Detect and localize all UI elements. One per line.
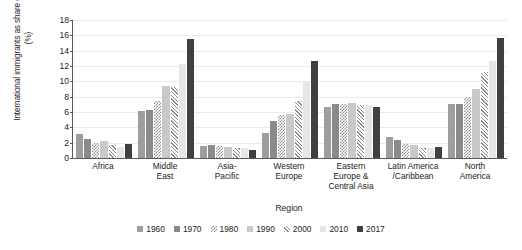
legend-label: 2010 [329,224,348,234]
bar [497,38,504,158]
legend-swatch-icon [247,226,253,232]
x-axis-category-label: Asia-Pacific [196,161,258,192]
bar [138,111,145,158]
x-axis-category-label: WesternEurope [258,161,320,192]
bar [311,61,318,158]
bar [357,105,364,158]
bar [270,121,277,158]
legend-label: 1970 [183,224,202,234]
bar [92,143,99,158]
bar [348,103,355,158]
y-axis-tick-label: 10 [29,76,73,86]
plot-area: 024681012141618 [72,20,507,159]
bar [286,114,293,158]
y-axis-tick-label: 8 [29,92,73,102]
bar [365,105,372,158]
y-axis-tick-label: 6 [29,107,73,117]
y-axis-tick-mark [70,158,73,159]
bar-group [73,20,135,158]
y-axis-tick-label: 0 [29,153,73,163]
bar [216,146,223,158]
bar [84,139,91,158]
bar [241,148,248,158]
y-axis-tick-label: 14 [29,46,73,56]
bar [278,115,285,158]
legend-item[interactable]: 1970 [174,224,202,234]
bar [332,104,339,158]
bar [410,145,417,158]
bar [146,110,153,158]
bar-group [135,20,197,158]
bar [200,146,207,158]
legend-swatch-icon [174,226,180,232]
legend-swatch-icon [137,226,143,232]
bar [262,133,269,158]
legend: 1960197019801990200020102017 [0,224,522,234]
bar [472,89,479,158]
x-axis-category-labels: AfricaMiddleEastAsia-PacificWesternEurop… [72,161,506,192]
bar [171,87,178,158]
bar [100,141,107,158]
legend-label: 1980 [220,224,239,234]
bar [179,64,186,158]
legend-item[interactable]: 2000 [284,224,312,234]
bar [109,145,116,158]
bar [208,145,215,158]
legend-item[interactable]: 2010 [320,224,348,234]
legend-label: 2017 [366,224,385,234]
bar [324,107,331,158]
legend-item[interactable]: 1980 [211,224,239,234]
bar [386,137,393,158]
y-axis-tick-label: 16 [29,30,73,40]
bar [419,148,426,158]
bar [117,147,124,158]
bar [402,144,409,158]
bar [394,140,401,158]
bar-groups [73,20,507,158]
y-axis-tick-label: 2 [29,138,73,148]
bar [435,147,442,159]
immigration-share-bar-chart: International immigrants as share of pop… [0,0,522,250]
bar [464,97,471,158]
x-axis-title: Region [72,203,506,213]
x-axis-category-label: EasternEurope &Central Asia [320,161,382,192]
bar [489,61,496,158]
bar-group [383,20,445,158]
y-axis-tick-label: 12 [29,61,73,71]
legend-label: 2000 [293,224,312,234]
bar-group [197,20,259,158]
bar-group [445,20,507,158]
legend-item[interactable]: 1960 [137,224,165,234]
legend-item[interactable]: 1990 [247,224,275,234]
bar [427,148,434,158]
legend-swatch-icon [357,226,363,232]
bar [295,101,302,158]
bar [249,150,256,158]
legend-swatch-icon [284,226,290,232]
legend-swatch-icon [320,226,326,232]
bar [187,39,194,158]
legend-label: 1990 [256,224,275,234]
bar [456,104,463,158]
bar [224,147,231,159]
bar [448,104,455,158]
bar-group [259,20,321,158]
x-axis-category-label: MiddleEast [134,161,196,192]
legend-item[interactable]: 2017 [357,224,385,234]
y-axis-tick-label: 18 [29,15,73,25]
bar [373,107,380,158]
x-axis-category-label: Africa [72,161,134,192]
y-axis-tick-label: 4 [29,122,73,132]
bar [154,101,161,158]
bar [481,72,488,158]
bar [303,82,310,158]
x-axis-category-label: NorthAmerica [444,161,506,192]
bar [233,148,240,158]
legend-swatch-icon [211,226,217,232]
x-axis-category-label: Latin America/Caribbean [382,161,444,192]
bar [340,104,347,158]
legend-label: 1960 [146,224,165,234]
bar-group [321,20,383,158]
bar [162,86,169,158]
bar [125,144,132,158]
